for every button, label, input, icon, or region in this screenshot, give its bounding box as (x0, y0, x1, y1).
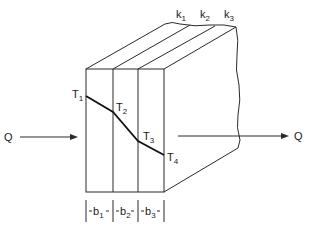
composite-wall-diagram: Q Q k1 k2 k3 T1 T2 T3 T4 b1 b2 b3 (0, 0, 310, 235)
thickness-label-b1: b1 (93, 205, 104, 220)
heat-flow-in-arrow (20, 134, 78, 140)
temperature-label-t3: T3 (143, 130, 155, 145)
temperature-profile-line (86, 96, 164, 155)
thickness-label-b2: b2 (120, 205, 131, 220)
temperature-label-t2: T2 (116, 101, 128, 116)
temperature-label-t4: T4 (167, 151, 179, 166)
conductivity-label-k1: k1 (176, 8, 187, 23)
bottom-edge-right (164, 148, 238, 192)
temperature-label-t1: T1 (72, 88, 84, 103)
wall-block (86, 23, 240, 193)
conductivity-label-k3: k3 (224, 8, 235, 23)
heat-flow-in-label: Q (4, 131, 13, 143)
right-broken-edge (236, 27, 240, 148)
front-face (86, 69, 164, 192)
heat-flow-out-arrow (178, 133, 289, 139)
conductivity-label-k2: k2 (200, 8, 211, 23)
back-top-edge (165, 23, 236, 28)
thickness-label-b3: b3 (145, 205, 156, 220)
heat-flow-out-label: Q (294, 130, 303, 142)
